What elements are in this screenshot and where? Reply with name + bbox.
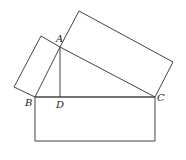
geometry-diagram: A B C D	[0, 0, 186, 160]
left-rectangle	[14, 36, 60, 97]
label-a: A	[55, 33, 63, 44]
right-rectangle	[60, 11, 173, 97]
label-d: D	[55, 99, 64, 110]
bottom-rectangle	[35, 97, 155, 141]
label-b: B	[24, 97, 32, 108]
label-c: C	[157, 92, 165, 103]
